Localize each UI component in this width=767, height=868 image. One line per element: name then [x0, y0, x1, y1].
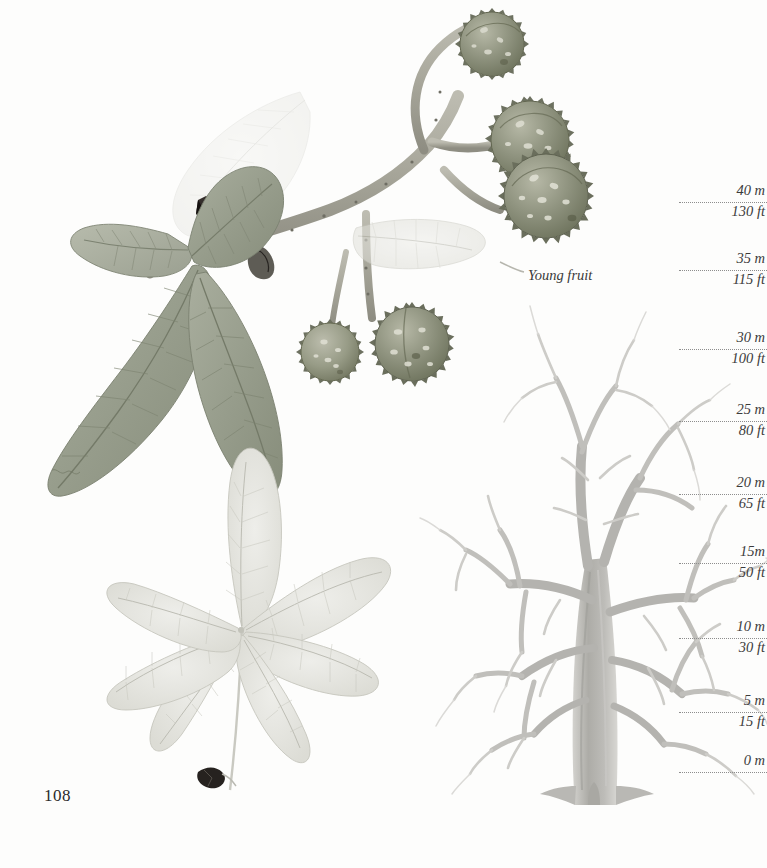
scale-label-metric: 30 m [736, 329, 765, 346]
scale-label-imperial: 115 ft [733, 271, 765, 288]
scale-label-metric: 20 m [736, 474, 765, 491]
scale-mark: 0 m [677, 752, 767, 796]
scale-label-imperial: 15 ft [739, 713, 765, 730]
scale-label-metric: 0 m [744, 752, 765, 769]
fruit-capsule-top [455, 8, 529, 80]
fruit-capsule-centre-small [296, 319, 364, 385]
scale-mark: 30 m100 ft [677, 329, 767, 373]
leaflet-palmate-1 [226, 448, 281, 628]
caption-young-fruit: Young fruit [528, 267, 592, 284]
scale-label-imperial: 100 ft [732, 350, 765, 367]
scale-mark: 15m50 ft [677, 543, 767, 587]
botanical-illustration-plate [0, 0, 767, 868]
height-scale-ruler: 40 m130 ft35 m115 ft30 m100 ft25 m80 ft2… [677, 0, 767, 868]
scale-mark: 25 m80 ft [677, 401, 767, 445]
fruit-capsule-lower-right [498, 148, 595, 245]
scale-label-imperial: 80 ft [739, 422, 765, 439]
palmate-compound-leaf [107, 448, 391, 790]
scale-mark: 35 m115 ft [677, 250, 767, 294]
scale-leader-line [679, 772, 767, 773]
leaflet-upper-left [71, 224, 192, 277]
scale-label-metric: 40 m [736, 182, 765, 199]
page-number: 108 [44, 786, 71, 806]
scale-label-metric: 35 m [736, 250, 765, 267]
scale-label-imperial: 65 ft [739, 495, 765, 512]
scale-label-metric: 15m [740, 543, 765, 560]
scale-mark: 5 m15 ft [677, 692, 767, 736]
field-guide-page: Young fruit 40 m130 ft35 m115 ft30 m100 … [0, 0, 767, 868]
leaflet-pale-right [353, 219, 485, 268]
scale-mark: 40 m130 ft [677, 182, 767, 226]
scale-mark: 20 m65 ft [677, 474, 767, 518]
scale-label-imperial: 30 ft [739, 639, 765, 656]
leaflet-large-left [48, 265, 212, 496]
scale-label-metric: 25 m [736, 401, 765, 418]
scale-mark: 10 m30 ft [677, 618, 767, 662]
scale-label-metric: 10 m [736, 618, 765, 635]
scale-label-imperial: 130 ft [732, 203, 765, 220]
fruit-capsule-centre-large [369, 302, 455, 387]
caption-leader-line [500, 262, 524, 272]
scale-label-imperial: 50 ft [739, 564, 765, 581]
leaflet-palmate-7 [107, 583, 241, 652]
scale-label-metric: 5 m [744, 692, 765, 709]
